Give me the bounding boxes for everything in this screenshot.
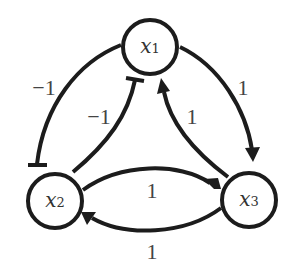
edge-label-x1-x3: 1 [238,75,249,100]
node-x3: x3 [222,173,276,227]
edge-label-x1-x2: −1 [32,75,55,100]
node-x2: x2 [28,174,82,228]
arrowhead-icon [204,178,221,189]
edge-line [92,208,221,231]
inhibition-bar-icon [126,78,144,81]
edge-label-x3-x1: 1 [187,104,198,129]
edge-label-x3-x2: 1 [147,239,158,264]
edge-label-x2-x1: −1 [87,104,110,129]
arrowhead-icon [157,78,170,94]
edge-label-x2-x3: 1 [147,178,158,203]
arrowhead-icon [245,147,260,162]
edge-x3-to-x2 [81,208,221,231]
node-x1: x1 [123,20,177,74]
network-diagram: x1 x2 x3 −1 −1 1 1 1 1 [0,0,294,278]
